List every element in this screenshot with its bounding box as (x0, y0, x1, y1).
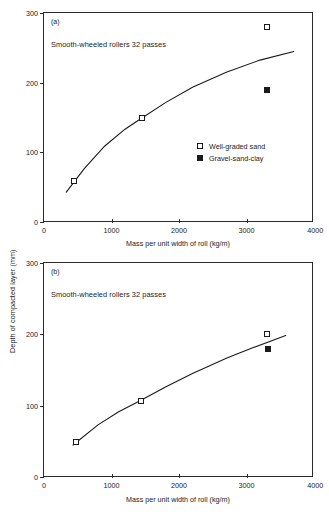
panel-tag-a: (a) (51, 18, 60, 25)
y-tick-label-a-100: 100 (26, 148, 38, 157)
x-tick-label-a-1000: 1000 (104, 226, 120, 235)
x-axis-title-a: Mass per unit width of roll (kg/m) (43, 239, 313, 248)
legend-item-gravel-sand-clay: Gravel-sand-clay (197, 153, 265, 163)
plot-frame-a: 0 100 200 300 0 1000 2000 3000 4000 (43, 12, 313, 222)
data-point-b-gravelsandclay-1[interactable] (265, 346, 271, 352)
legend-item-well-graded-sand: Well-graded sand (197, 141, 265, 151)
y-tick-label-a-300: 300 (26, 9, 38, 18)
plot-area-b: 0 100 200 300 0 1000 2000 3000 4000 (44, 263, 312, 476)
panel-note-a: Smooth-wheeled rollers 32 passes (51, 40, 166, 49)
data-point-a-wellgraded-1[interactable] (71, 178, 77, 184)
plot-frame-b: 0 100 200 300 0 1000 2000 3000 4000 (43, 262, 313, 477)
x-tick-label-b-2000: 2000 (171, 481, 187, 490)
filled-square-icon (197, 155, 209, 161)
y-tick-label-a-200: 200 (26, 78, 38, 87)
x-tick-label-a-4000: 4000 (307, 226, 323, 235)
y-tick-label-b-200: 200 (26, 330, 38, 339)
legend: Well-graded sand Gravel-sand-clay (197, 141, 265, 165)
data-point-b-wellgraded-2[interactable] (138, 398, 144, 404)
x-tick-label-b-3000: 3000 (239, 481, 255, 490)
chart-panel-b: 0 100 200 300 0 1000 2000 3000 4000 (0, 250, 329, 515)
y-tick-label-b-0: 0 (34, 473, 38, 482)
y-tick-label-b-100: 100 (26, 401, 38, 410)
x-tick-label-a-2000: 2000 (171, 226, 187, 235)
x-tick-label-b-1000: 1000 (104, 481, 120, 490)
data-point-b-wellgraded-1[interactable] (73, 439, 79, 445)
y-tick-label-a-0: 0 (34, 218, 38, 227)
x-tick-label-b-0: 0 (42, 481, 46, 490)
x-tick-label-b-4000: 4000 (307, 481, 323, 490)
data-point-a-wellgraded-2[interactable] (139, 115, 145, 121)
legend-label-gravel-sand-clay: Gravel-sand-clay (209, 154, 263, 163)
panel-tag-b: (b) (51, 268, 60, 275)
data-point-b-wellgraded-3[interactable] (264, 331, 270, 337)
x-tick-label-a-0: 0 (42, 226, 46, 235)
legend-label-well-graded-sand: Well-graded sand (209, 142, 265, 151)
data-point-a-gravelsandclay-1[interactable] (264, 87, 270, 93)
chart-panel-a: 0 100 200 300 0 1000 2000 3000 4000 (0, 0, 329, 250)
open-square-icon (197, 143, 209, 149)
y-tick-label-b-300: 300 (26, 259, 38, 268)
x-tick-label-a-3000: 3000 (239, 226, 255, 235)
x-axis-title-b: Mass per unit width of roll (kg/m) (43, 495, 313, 504)
data-point-a-wellgraded-3[interactable] (264, 24, 270, 30)
figure-root: Depth of compacted layer (mm) 0 100 200 … (0, 0, 329, 515)
panel-note-b: Smooth-wheeled rollers 32 passes (51, 290, 166, 299)
plot-area-a: 0 100 200 300 0 1000 2000 3000 4000 (44, 13, 312, 221)
